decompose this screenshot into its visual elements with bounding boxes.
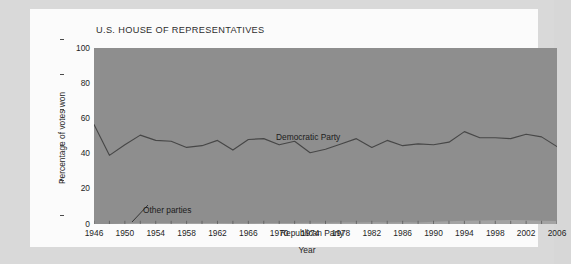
x-tick-label: 1966 — [239, 228, 258, 238]
y-tick-mark — [60, 109, 64, 110]
y-tick-mark — [60, 74, 64, 75]
x-axis-title: Year — [30, 245, 571, 255]
x-tick-label: 1998 — [486, 228, 505, 238]
x-tick-label: 1958 — [177, 228, 196, 238]
x-tick-label: 1978 — [332, 228, 351, 238]
x-tick-label: 1994 — [455, 228, 474, 238]
y-tick-mark — [60, 180, 64, 181]
x-tick-label: 1982 — [362, 228, 381, 238]
x-tick-label: 2006 — [548, 228, 567, 238]
figure-card: U.S. HOUSE OF REPRESENTATIVES Percentage… — [30, 9, 538, 247]
x-tick-label: 1974 — [301, 228, 320, 238]
x-axis-tick-labels: 1946195019541958196219661970197419781982… — [30, 9, 571, 264]
x-tick-label: 1954 — [146, 228, 165, 238]
y-tick-mark — [60, 145, 64, 146]
y-tick-mark — [60, 215, 64, 216]
x-tick-label: 2002 — [517, 228, 536, 238]
x-tick-label: 1962 — [208, 228, 227, 238]
x-tick-label: 1990 — [424, 228, 443, 238]
x-tick-label: 1986 — [393, 228, 412, 238]
x-tick-label: 1946 — [85, 228, 104, 238]
x-tick-label: 1950 — [116, 228, 135, 238]
y-tick-mark — [60, 39, 64, 40]
x-tick-label: 1970 — [270, 228, 289, 238]
